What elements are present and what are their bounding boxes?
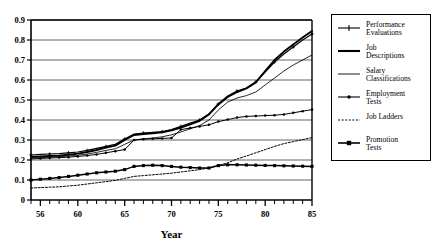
series-marker-employment-tests	[273, 114, 276, 117]
legend-item-job-descriptions: Job Descriptions	[336, 43, 426, 62]
series-marker-employment-tests	[123, 148, 126, 151]
series-marker-employment-tests	[311, 108, 314, 111]
legend-label-job-ladders: Job Ladders	[366, 112, 403, 121]
series-marker-employment-tests	[133, 139, 136, 142]
legend-label-line1: Job Ladders	[366, 113, 403, 121]
series-marker-promotion-tests	[48, 177, 51, 180]
series-marker-promotion-tests	[226, 163, 229, 166]
series-marker-employment-tests	[105, 152, 108, 155]
legend-label-performance-evaluations: Performance Evaluations	[366, 20, 405, 38]
x-axis-title: Year	[161, 228, 183, 240]
legend-key-job-descriptions-icon	[336, 43, 362, 59]
series-marker-promotion-tests	[245, 163, 248, 166]
legend-label-line2: Descriptions	[366, 52, 404, 60]
series-marker-promotion-tests	[189, 166, 192, 169]
legend-key-performance-evaluations-icon	[336, 20, 362, 36]
series-marker-promotion-tests	[236, 163, 239, 166]
series-marker-employment-tests	[58, 156, 61, 159]
legend-item-job-ladders: Job Ladders	[336, 112, 426, 131]
series-marker-employment-tests	[161, 137, 164, 140]
series-marker-employment-tests	[142, 138, 145, 141]
legend-label-job-descriptions: Job Descriptions	[366, 43, 404, 61]
series-marker-employment-tests	[217, 120, 220, 123]
x-tick-label: 85	[308, 209, 317, 219]
series-marker-promotion-tests	[39, 178, 42, 181]
legend-label-line2: Tests	[366, 144, 398, 152]
y-tick-label: 0.3	[14, 135, 25, 145]
y-tick-label: 0.1	[14, 175, 25, 185]
legend-item-performance-evaluations: Performance Evaluations	[336, 20, 426, 39]
x-tick-label: 70	[167, 209, 176, 219]
series-marker-promotion-tests	[310, 165, 313, 168]
y-tick-label: 0.2	[14, 155, 25, 165]
series-marker-employment-tests	[67, 156, 70, 159]
series-marker-employment-tests	[283, 113, 286, 116]
y-tick-label: 0.7	[14, 55, 25, 65]
series-marker-promotion-tests	[123, 168, 126, 171]
series-marker-promotion-tests	[95, 171, 98, 174]
x-tick-label: 60	[74, 209, 83, 219]
series-marker-promotion-tests	[76, 174, 79, 177]
y-tick-label: 0.6	[14, 75, 25, 85]
y-tick-label: 0.9	[14, 15, 25, 25]
series-marker-promotion-tests	[217, 164, 220, 167]
series-marker-employment-tests	[114, 150, 117, 153]
series-marker-employment-tests	[170, 137, 173, 140]
series-marker-promotion-tests	[58, 176, 61, 179]
y-tick-label: 0.8	[14, 35, 25, 45]
x-tick-label: 80	[261, 209, 270, 219]
plot-area: 00.10.20.30.40.50.60.70.80.9566065707580…	[0, 0, 320, 246]
series-marker-promotion-tests	[142, 164, 145, 167]
series-marker-employment-tests	[95, 153, 98, 156]
series-marker-promotion-tests	[151, 164, 154, 167]
series-marker-promotion-tests	[282, 164, 285, 167]
series-marker-employment-tests	[208, 124, 211, 127]
series-marker-employment-tests	[301, 110, 304, 113]
series-marker-employment-tests	[236, 116, 239, 119]
series-marker-employment-tests	[180, 128, 183, 131]
series-marker-promotion-tests	[67, 175, 70, 178]
series-marker-employment-tests	[226, 118, 229, 121]
legend-item-salary-classifications: Salary Classifications	[336, 66, 426, 85]
chart-legend: Performance Evaluations Job Descriptions…	[331, 14, 431, 161]
series-marker-employment-tests	[30, 158, 33, 161]
legend-label-line2: Tests	[366, 98, 405, 106]
series-marker-promotion-tests	[161, 164, 164, 167]
legend-item-promotion-tests: Promotion Tests	[336, 135, 426, 154]
legend-label-promotion-tests: Promotion Tests	[366, 135, 398, 153]
x-tick-label: 56	[36, 209, 45, 219]
legend-label-line2: Classifications	[366, 75, 411, 83]
legend-item-employment-tests: Employment Tests	[336, 89, 426, 108]
x-tick-label: 75	[214, 209, 223, 219]
series-marker-employment-tests	[292, 112, 295, 115]
series-marker-employment-tests	[39, 157, 42, 160]
series-marker-employment-tests	[77, 155, 80, 158]
legend-label-line2: Evaluations	[366, 29, 405, 37]
legend-label-employment-tests: Employment Tests	[366, 89, 405, 107]
chart-root: 00.10.20.30.40.50.60.70.80.9566065707580…	[0, 0, 442, 246]
series-marker-promotion-tests	[301, 165, 304, 168]
y-tick-label: 0	[21, 195, 25, 205]
series-marker-employment-tests	[152, 138, 155, 141]
series-marker-promotion-tests	[292, 164, 295, 167]
series-line-employment-tests	[31, 110, 312, 159]
series-marker-promotion-tests	[114, 170, 117, 173]
series-marker-promotion-tests	[132, 165, 135, 168]
series-marker-promotion-tests	[29, 178, 32, 181]
chart-svg: 00.10.20.30.40.50.60.70.80.9566065707580…	[0, 0, 320, 246]
legend-key-promotion-tests-icon	[336, 135, 362, 151]
series-marker-promotion-tests	[207, 166, 210, 169]
series-marker-employment-tests	[189, 127, 192, 130]
series-marker-promotion-tests	[86, 172, 89, 175]
y-tick-label: 0.4	[14, 115, 25, 125]
series-marker-promotion-tests	[198, 166, 201, 169]
x-tick-label: 65	[120, 209, 129, 219]
y-tick-label: 0.5	[14, 95, 25, 105]
legend-key-job-ladders-icon	[336, 112, 362, 128]
legend-label-salary-classifications: Salary Classifications	[366, 66, 411, 84]
legend-key-salary-classifications-icon	[336, 66, 362, 82]
series-line-salary-classifications	[31, 55, 312, 158]
series-marker-promotion-tests	[264, 164, 267, 167]
series-marker-employment-tests	[48, 157, 51, 160]
series-marker-employment-tests	[86, 154, 89, 157]
